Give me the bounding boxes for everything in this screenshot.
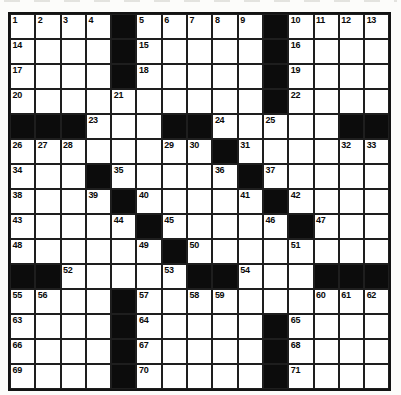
letter-cell[interactable] bbox=[86, 314, 111, 339]
letter-cell[interactable] bbox=[35, 314, 60, 339]
letter-cell[interactable] bbox=[162, 364, 187, 389]
letter-cell[interactable]: 11 bbox=[314, 14, 339, 39]
letter-cell[interactable]: 34 bbox=[10, 164, 35, 189]
letter-cell[interactable]: 41 bbox=[238, 189, 263, 214]
letter-cell[interactable] bbox=[187, 214, 212, 239]
letter-cell[interactable] bbox=[339, 364, 364, 389]
letter-cell[interactable] bbox=[314, 189, 339, 214]
letter-cell[interactable]: 9 bbox=[238, 14, 263, 39]
letter-cell[interactable]: 51 bbox=[288, 239, 313, 264]
letter-cell[interactable]: 38 bbox=[10, 189, 35, 214]
letter-cell[interactable] bbox=[136, 139, 161, 164]
letter-cell[interactable]: 48 bbox=[10, 239, 35, 264]
letter-cell[interactable] bbox=[238, 214, 263, 239]
letter-cell[interactable]: 65 bbox=[288, 314, 313, 339]
letter-cell[interactable] bbox=[314, 89, 339, 114]
letter-cell[interactable] bbox=[61, 89, 86, 114]
letter-cell[interactable] bbox=[35, 39, 60, 64]
letter-cell[interactable] bbox=[35, 239, 60, 264]
letter-cell[interactable]: 2 bbox=[35, 14, 60, 39]
letter-cell[interactable] bbox=[61, 289, 86, 314]
letter-cell[interactable]: 56 bbox=[35, 289, 60, 314]
letter-cell[interactable] bbox=[162, 64, 187, 89]
letter-cell[interactable] bbox=[86, 339, 111, 364]
letter-cell[interactable]: 68 bbox=[288, 339, 313, 364]
letter-cell[interactable]: 25 bbox=[263, 114, 288, 139]
letter-cell[interactable]: 26 bbox=[10, 139, 35, 164]
letter-cell[interactable] bbox=[61, 39, 86, 64]
letter-cell[interactable] bbox=[339, 64, 364, 89]
letter-cell[interactable] bbox=[86, 139, 111, 164]
letter-cell[interactable]: 47 bbox=[314, 214, 339, 239]
letter-cell[interactable] bbox=[212, 214, 237, 239]
letter-cell[interactable]: 30 bbox=[187, 139, 212, 164]
letter-cell[interactable]: 64 bbox=[136, 314, 161, 339]
letter-cell[interactable] bbox=[162, 89, 187, 114]
letter-cell[interactable]: 37 bbox=[263, 164, 288, 189]
letter-cell[interactable] bbox=[364, 239, 389, 264]
letter-cell[interactable] bbox=[162, 39, 187, 64]
letter-cell[interactable] bbox=[238, 89, 263, 114]
letter-cell[interactable]: 60 bbox=[314, 289, 339, 314]
letter-cell[interactable] bbox=[61, 64, 86, 89]
letter-cell[interactable] bbox=[238, 364, 263, 389]
letter-cell[interactable] bbox=[339, 164, 364, 189]
letter-cell[interactable]: 53 bbox=[162, 264, 187, 289]
letter-cell[interactable]: 55 bbox=[10, 289, 35, 314]
letter-cell[interactable] bbox=[162, 289, 187, 314]
letter-cell[interactable]: 15 bbox=[136, 39, 161, 64]
letter-cell[interactable] bbox=[136, 164, 161, 189]
letter-cell[interactable]: 10 bbox=[288, 14, 313, 39]
letter-cell[interactable] bbox=[212, 89, 237, 114]
letter-cell[interactable] bbox=[212, 339, 237, 364]
letter-cell[interactable] bbox=[364, 189, 389, 214]
letter-cell[interactable]: 24 bbox=[212, 114, 237, 139]
letter-cell[interactable]: 35 bbox=[111, 164, 136, 189]
letter-cell[interactable] bbox=[35, 189, 60, 214]
letter-cell[interactable] bbox=[339, 39, 364, 64]
letter-cell[interactable] bbox=[288, 139, 313, 164]
letter-cell[interactable]: 7 bbox=[187, 14, 212, 39]
letter-cell[interactable] bbox=[364, 164, 389, 189]
letter-cell[interactable] bbox=[339, 214, 364, 239]
letter-cell[interactable] bbox=[35, 64, 60, 89]
letter-cell[interactable] bbox=[314, 114, 339, 139]
letter-cell[interactable] bbox=[314, 314, 339, 339]
letter-cell[interactable] bbox=[339, 339, 364, 364]
letter-cell[interactable]: 20 bbox=[10, 89, 35, 114]
letter-cell[interactable]: 44 bbox=[111, 214, 136, 239]
letter-cell[interactable]: 61 bbox=[339, 289, 364, 314]
letter-cell[interactable] bbox=[263, 289, 288, 314]
letter-cell[interactable] bbox=[364, 214, 389, 239]
letter-cell[interactable] bbox=[61, 314, 86, 339]
letter-cell[interactable]: 13 bbox=[364, 14, 389, 39]
letter-cell[interactable] bbox=[238, 39, 263, 64]
letter-cell[interactable] bbox=[35, 89, 60, 114]
letter-cell[interactable]: 63 bbox=[10, 314, 35, 339]
letter-cell[interactable] bbox=[136, 89, 161, 114]
letter-cell[interactable] bbox=[86, 289, 111, 314]
letter-cell[interactable] bbox=[35, 364, 60, 389]
letter-cell[interactable]: 50 bbox=[187, 239, 212, 264]
letter-cell[interactable]: 69 bbox=[10, 364, 35, 389]
letter-cell[interactable]: 33 bbox=[364, 139, 389, 164]
letter-cell[interactable] bbox=[111, 139, 136, 164]
letter-cell[interactable] bbox=[86, 364, 111, 389]
letter-cell[interactable] bbox=[314, 239, 339, 264]
letter-cell[interactable]: 43 bbox=[10, 214, 35, 239]
letter-cell[interactable]: 54 bbox=[238, 264, 263, 289]
letter-cell[interactable]: 1 bbox=[10, 14, 35, 39]
letter-cell[interactable] bbox=[238, 239, 263, 264]
letter-cell[interactable] bbox=[314, 139, 339, 164]
letter-cell[interactable]: 40 bbox=[136, 189, 161, 214]
letter-cell[interactable] bbox=[364, 39, 389, 64]
letter-cell[interactable] bbox=[86, 239, 111, 264]
letter-cell[interactable]: 31 bbox=[238, 139, 263, 164]
letter-cell[interactable]: 8 bbox=[212, 14, 237, 39]
letter-cell[interactable] bbox=[314, 339, 339, 364]
letter-cell[interactable] bbox=[364, 314, 389, 339]
letter-cell[interactable] bbox=[61, 339, 86, 364]
letter-cell[interactable] bbox=[162, 314, 187, 339]
letter-cell[interactable]: 49 bbox=[136, 239, 161, 264]
letter-cell[interactable]: 66 bbox=[10, 339, 35, 364]
